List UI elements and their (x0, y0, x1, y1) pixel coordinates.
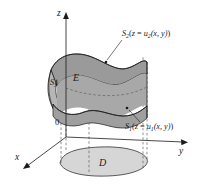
surface-S3-label-subscript: 3 (53, 82, 57, 88)
solid-E-label: E (72, 72, 79, 83)
surface-S1-eq-equals: = (138, 122, 147, 131)
surface-S2-label: S2(z = u2(x, y)) (122, 29, 170, 39)
z-axis-arrowhead (63, 12, 69, 19)
surface-S1-paren-close: ) (170, 122, 173, 131)
x-axis-label: x (14, 152, 20, 162)
y-axis-label: y (178, 146, 184, 156)
origin-label: 0 (55, 117, 59, 127)
surface-S1-eq-args: (x, y) (154, 122, 171, 131)
surface-S2-paren-close: ) (167, 29, 170, 38)
surface-S2-point-marker (105, 61, 108, 64)
surface-S2-eq-args: (x, y) (151, 29, 168, 38)
surface-S1-point-marker (126, 107, 129, 110)
y-axis-arrowhead (181, 139, 188, 145)
solid-region-figure: z y x 0 E D S3 S2(z = u2(x, y)) S1(z = u… (0, 0, 211, 186)
x-axis-arrowhead (23, 163, 30, 169)
base-region-D-label: D (98, 157, 107, 168)
surface-S2-leader-line (107, 40, 122, 60)
figure-container: z y x 0 E D S3 S2(z = u2(x, y)) S1(z = u… (0, 0, 211, 186)
surface-S1-label: S1(z = u1(x, y)) (125, 122, 173, 132)
surface-S2-eq-equals: = (135, 29, 144, 38)
y-axis-line (66, 137, 183, 142)
z-axis-label: z (56, 8, 61, 18)
